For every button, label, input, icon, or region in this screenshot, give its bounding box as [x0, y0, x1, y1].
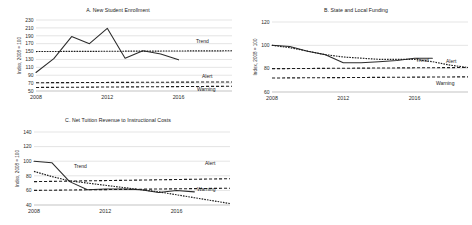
- x-tick-label: 2016: [171, 208, 183, 214]
- x-tick-label: 2008: [266, 95, 278, 101]
- x-tick-label: 2008: [30, 94, 42, 100]
- y-tick-label: 100: [23, 158, 32, 164]
- chart-c-title: C. Net Tuition Revenue to Instructional …: [0, 117, 236, 123]
- series-actual-line: [34, 161, 194, 192]
- y-tick-label: 110: [26, 64, 34, 70]
- series-label-warning: Warning: [436, 80, 455, 86]
- y-tick-label: 100: [261, 42, 270, 48]
- series-label-trend: Trend: [196, 38, 209, 44]
- y-tick-label: 90: [28, 72, 34, 78]
- x-tick-label: 2012: [101, 94, 113, 100]
- series-label-trend: Trend: [74, 163, 87, 169]
- y-tick-label: 120: [23, 143, 32, 149]
- y-tick-label: 210: [25, 25, 34, 31]
- x-tick-label: 2016: [409, 95, 421, 101]
- y-axis-title: Index, 2008 = 100: [17, 37, 22, 74]
- y-axis-title: Index, 2008 = 100: [253, 38, 258, 75]
- chart-b-title: B. State and Local Funding: [240, 7, 472, 13]
- series-label-trend: Trend: [416, 57, 429, 63]
- x-tick-label: 2016: [173, 94, 185, 100]
- y-tick-label: 130: [25, 56, 34, 62]
- chart-a-plot: 507090110130150170190210230Index, 2008 =…: [0, 0, 236, 112]
- chart-panel-b: B. State and Local Funding 6080100120Ind…: [240, 0, 472, 112]
- y-tick-label: 150: [25, 48, 34, 54]
- series-label-warning: Warning: [197, 186, 216, 192]
- chart-panel-a: A. New Student Enrollment 50709011013015…: [0, 0, 236, 112]
- y-tick-label: 190: [25, 33, 34, 39]
- y-tick-label: 230: [25, 17, 34, 23]
- y-tick-label: 120: [261, 19, 270, 25]
- series-trend-line: [272, 45, 468, 67]
- chart-b-plot: 6080100120Index, 2008 = 100200820122016T…: [240, 0, 472, 112]
- series-label-warning: Warning: [197, 86, 216, 92]
- series-actual-line: [36, 28, 179, 72]
- chart-a-title: A. New Student Enrollment: [0, 7, 236, 13]
- series-warning-line: [272, 77, 468, 78]
- series-label-alert: Alert: [446, 58, 457, 64]
- chart-panel-c: C. Net Tuition Revenue to Instructional …: [0, 110, 236, 225]
- y-tick-label: 80: [26, 173, 32, 179]
- y-tick-label: 140: [23, 129, 32, 135]
- y-tick-label: 80: [264, 65, 270, 71]
- y-tick-label: 60: [26, 187, 32, 193]
- x-tick-label: 2008: [28, 208, 40, 214]
- x-tick-label: 2012: [99, 208, 111, 214]
- x-tick-label: 2012: [337, 95, 349, 101]
- series-label-alert: Alert: [205, 160, 216, 166]
- y-axis-title: Index, 2008 = 100: [15, 150, 20, 187]
- series-label-alert: Alert: [202, 73, 213, 79]
- y-tick-label: 170: [25, 40, 34, 46]
- y-tick-label: 70: [28, 80, 34, 86]
- series-actual-line: [272, 45, 432, 63]
- series-alert-line: [36, 82, 232, 83]
- chart-c-plot: 406080100120140Index, 2008 = 10020082012…: [0, 110, 236, 225]
